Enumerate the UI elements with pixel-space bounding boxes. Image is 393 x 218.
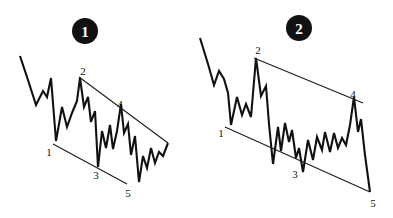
wave-label-5: 5 xyxy=(370,197,376,209)
wave-label-3: 3 xyxy=(93,169,99,181)
upper-trendline xyxy=(254,58,363,103)
wave-diagram-canvas: 1 1 2 3 4 5 2 1 2 3 4 5 xyxy=(0,0,393,218)
wave-label-4: 4 xyxy=(117,98,123,110)
wave-label-2: 2 xyxy=(255,44,261,56)
price-line xyxy=(20,56,168,182)
panel-2: 2 1 2 3 4 5 xyxy=(200,15,376,209)
wave-label-5: 5 xyxy=(125,187,131,199)
lower-trendline xyxy=(53,144,127,184)
badge-label: 1 xyxy=(81,24,89,40)
wave-label-2: 2 xyxy=(80,65,86,77)
wave-label-4: 4 xyxy=(350,88,356,100)
badge-label: 2 xyxy=(295,21,303,37)
panel-1-badge: 1 xyxy=(72,18,98,44)
price-line xyxy=(200,38,370,192)
panel-1: 1 1 2 3 4 5 xyxy=(20,18,168,199)
wave-label-3: 3 xyxy=(292,168,298,180)
wave-label-1: 1 xyxy=(218,127,224,139)
panel-2-badge: 2 xyxy=(286,15,312,41)
wave-label-1: 1 xyxy=(46,146,52,158)
elliott-wave-figure: 1 1 2 3 4 5 2 1 2 3 4 5 xyxy=(0,0,393,218)
